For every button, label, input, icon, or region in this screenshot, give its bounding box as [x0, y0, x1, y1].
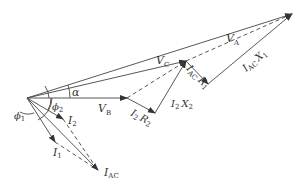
phi1-arc-left [20, 112, 34, 114]
vc-label: VC [156, 54, 169, 69]
phi2-label: ϕ2 [52, 101, 63, 114]
i2x2-label: I2X2 [170, 98, 193, 111]
i2-label: I2 [67, 114, 77, 128]
iacx1-phasor [208, 14, 292, 84]
va-label: VA [226, 32, 240, 47]
alpha-label: α [72, 86, 80, 99]
iacr1-label: IACR1 [182, 62, 212, 92]
dashed-vc-va [186, 14, 292, 61]
phi1-label: ϕ1 [14, 110, 25, 123]
vb-label: VB [98, 102, 111, 117]
iac-label: IAC [103, 166, 119, 180]
phasor-diagram: VA VC VB α ϕ2 ϕ1 I2 I1 IAC I2R2 I2X2 IAC… [0, 0, 308, 186]
alpha-arc [68, 85, 70, 98]
iacx1-label: IACX1 [239, 47, 270, 76]
i1-label: I1 [52, 146, 62, 160]
